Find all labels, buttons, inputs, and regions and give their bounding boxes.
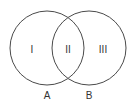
region-label-i: I: [31, 44, 34, 55]
venn-diagram: I II III A B: [0, 0, 135, 106]
region-label-iii: III: [99, 44, 107, 55]
region-label-ii: II: [65, 44, 71, 55]
circle-a: [10, 11, 84, 85]
circle-b: [52, 11, 126, 85]
set-label-a: A: [44, 90, 51, 101]
set-label-b: B: [86, 90, 93, 101]
